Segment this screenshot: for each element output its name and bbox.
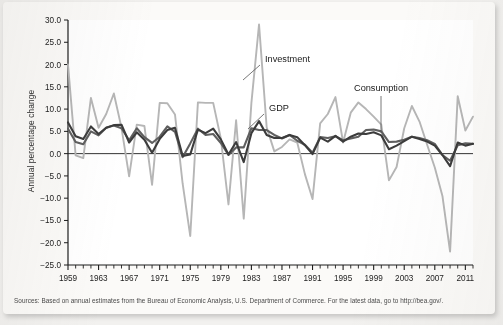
x-tick-label: 1967 [120,274,139,283]
y-tick-label: 0.0 [50,150,62,159]
x-axis-ticks: 1959196319671971197519791983198719911995… [59,265,475,283]
y-tick-label: 20.0 [45,61,61,70]
x-tick-label: 2003 [395,274,414,283]
y-tick-label: 15.0 [45,83,61,92]
x-tick-label: 1987 [273,274,292,283]
x-tick-label: 1991 [303,274,322,283]
annotation-label-consumption: Consumption [354,83,408,93]
x-tick-label: 1979 [212,274,231,283]
x-tick-label: 1971 [151,274,170,283]
x-tick-label: 1975 [181,274,200,283]
x-tick-label: 2011 [457,274,475,283]
line-chart: 30.025.020.015.010.05.00.0−5.0−10.0−15.0… [0,0,503,325]
x-tick-label: 1959 [59,274,78,283]
y-tick-label: −5.0 [45,172,62,181]
y-tick-label: −10.0 [40,194,61,203]
annotation-label-investment: Investment [265,54,310,64]
annotation-label-gdp: GDP [269,103,289,113]
x-tick-label: 1963 [89,274,108,283]
y-tick-label: −15.0 [40,216,61,225]
y-axis-ticks: 30.025.020.015.010.05.00.0−5.0−10.0−15.0… [40,16,68,270]
x-tick-label: 1995 [334,274,353,283]
x-tick-label: 1983 [242,274,261,283]
chart-figure: Annual percentage change 30.025.020.015.… [0,0,503,325]
y-tick-label: 30.0 [45,16,61,25]
y-tick-label: 10.0 [45,105,61,114]
x-tick-label: 1999 [365,274,384,283]
source-note: Sources: Based on annual estimates from … [14,296,484,305]
y-tick-label: −20.0 [40,239,61,248]
y-tick-label: 5.0 [50,127,62,136]
y-tick-label: 25.0 [45,38,61,47]
x-tick-label: 2007 [426,274,445,283]
y-tick-label: −25.0 [40,261,61,270]
